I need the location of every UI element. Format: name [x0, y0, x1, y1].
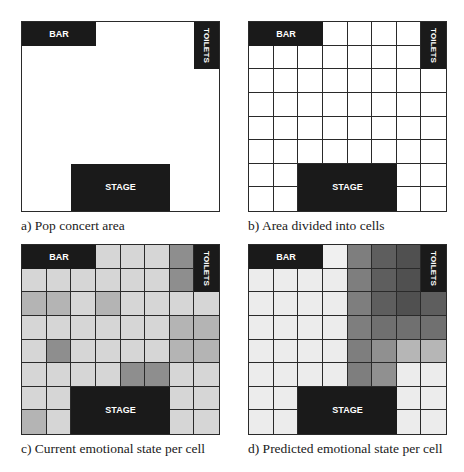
grid-cell — [421, 292, 446, 316]
grid-cell — [397, 316, 422, 340]
grid-cell — [323, 93, 348, 117]
grid-cell — [323, 22, 348, 46]
grid-cell — [249, 410, 274, 434]
grid-cell — [421, 187, 446, 211]
grid-cell — [372, 245, 397, 269]
grid-cell — [421, 164, 446, 188]
grid-cell — [372, 140, 397, 164]
grid-cell — [274, 69, 299, 93]
grid-cell — [274, 140, 299, 164]
toilets-area: TOILETS — [194, 22, 219, 69]
grid-cell — [170, 316, 195, 340]
grid-cell — [397, 269, 422, 293]
grid-cell — [298, 363, 323, 387]
grid-cell — [298, 117, 323, 141]
grid-cell — [397, 245, 422, 269]
grid-cell — [274, 46, 299, 70]
grid-cell — [397, 140, 422, 164]
grid-cell — [274, 410, 299, 434]
grid-cell — [421, 387, 446, 411]
grid-cell — [47, 340, 72, 364]
grid-cell — [348, 245, 373, 269]
grid-cell — [372, 269, 397, 293]
grid-cell — [194, 316, 219, 340]
bar-label: BAR — [276, 252, 296, 262]
bar-label: BAR — [49, 252, 69, 262]
grid-cell — [298, 316, 323, 340]
grid-cell — [348, 140, 373, 164]
grid-cell — [145, 363, 170, 387]
grid-cell — [249, 363, 274, 387]
toilets-label: TOILETS — [429, 251, 438, 286]
grid-cell — [96, 245, 121, 269]
grid-cell — [170, 410, 195, 434]
grid-cell — [348, 292, 373, 316]
grid-cell — [194, 340, 219, 364]
grid-cell — [274, 387, 299, 411]
grid-cell — [194, 363, 219, 387]
grid-cell — [323, 46, 348, 70]
grid-cell — [274, 363, 299, 387]
grid-cell — [421, 363, 446, 387]
grid-cell — [372, 117, 397, 141]
grid-cell — [194, 387, 219, 411]
grid-cell — [249, 187, 274, 211]
grid-cell — [121, 316, 146, 340]
grid-cell — [372, 93, 397, 117]
grid-cell — [170, 340, 195, 364]
grid-cell — [121, 340, 146, 364]
grid-cell — [323, 363, 348, 387]
toilets-label: TOILETS — [202, 28, 211, 63]
grid-cell — [397, 410, 422, 434]
stage-area: STAGE — [298, 164, 397, 211]
grid-cell — [96, 269, 121, 293]
panel-d-predicted-emotional-state: BARTOILETSSTAGE — [248, 244, 447, 435]
grid-cell — [71, 363, 96, 387]
stage-label: STAGE — [332, 405, 362, 415]
grid-cell — [397, 93, 422, 117]
toilets-area: TOILETS — [194, 245, 219, 292]
bar-label: BAR — [49, 29, 69, 39]
grid-cell — [298, 269, 323, 293]
grid-cell — [22, 269, 47, 293]
stage-area: STAGE — [71, 387, 170, 434]
grid-cell — [372, 292, 397, 316]
grid-cell — [348, 69, 373, 93]
stage-label: STAGE — [105, 405, 135, 415]
grid-cell — [274, 117, 299, 141]
grid-cell — [22, 340, 47, 364]
grid-cell — [421, 340, 446, 364]
grid-cell — [323, 269, 348, 293]
panel-c-current-emotional-state: BARTOILETSSTAGE — [21, 244, 220, 435]
grid-cell — [274, 340, 299, 364]
toilets-label: TOILETS — [202, 251, 211, 286]
grid-cell — [274, 292, 299, 316]
grid-cell — [397, 22, 422, 46]
grid-cell — [397, 46, 422, 70]
caption-c: c) Current emotional state per cell — [21, 441, 205, 457]
grid-cell — [96, 340, 121, 364]
grid-cell — [372, 363, 397, 387]
grid-cell — [274, 316, 299, 340]
grid-cell — [274, 93, 299, 117]
grid-cell — [71, 316, 96, 340]
caption-d: d) Predicted emotional state per cell — [248, 441, 443, 457]
grid-cell — [22, 316, 47, 340]
stage-label: STAGE — [332, 182, 362, 192]
grid-cell — [145, 316, 170, 340]
grid-cell — [298, 46, 323, 70]
grid-cell — [249, 164, 274, 188]
grid-cell — [372, 69, 397, 93]
grid-cell — [397, 363, 422, 387]
grid-cell — [71, 269, 96, 293]
grid-cell — [348, 340, 373, 364]
caption-a: a) Pop concert area — [21, 218, 125, 234]
grid-cell — [47, 292, 72, 316]
grid-cell — [249, 69, 274, 93]
grid-cell — [22, 410, 47, 434]
grid-cell — [421, 117, 446, 141]
grid-cell — [372, 340, 397, 364]
grid-cell — [121, 269, 146, 293]
grid-cell — [298, 93, 323, 117]
grid-cell — [323, 69, 348, 93]
